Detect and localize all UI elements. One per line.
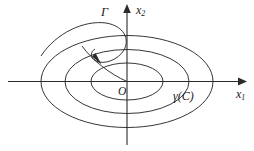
origin-label: O [118, 86, 126, 98]
gamma-trajectory-label: Γ [101, 6, 108, 19]
phase-portrait-figure: Γ x2 x1 O γ(C) [0, 0, 254, 151]
x1-axis-label-subscript: 1 [241, 93, 245, 102]
x2-axis [123, 4, 131, 145]
gamma-trajectory-outer-arc [41, 23, 126, 63]
gamma-trajectory [41, 23, 127, 82]
x2-axis-label: x2 [136, 4, 145, 16]
x2-axis-label-subscript: 2 [141, 9, 145, 18]
figure-canvas [0, 0, 254, 151]
x2-axis-arrow-icon [123, 4, 131, 13]
gamma-of-c-label: γ(C) [173, 90, 194, 102]
x1-axis-label: x1 [236, 88, 245, 100]
x1-axis-arrow-icon [238, 78, 247, 86]
